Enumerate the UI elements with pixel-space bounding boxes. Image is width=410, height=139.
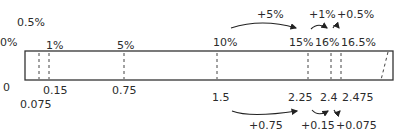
dashed-markers — [39, 52, 388, 80]
bar-rectangle — [25, 51, 393, 80]
label-value-2-25: 2.25 — [288, 92, 313, 104]
bottom-arrows — [232, 110, 340, 115]
arrow-plus0-15 — [312, 110, 328, 114]
label-value-2-4: 2.4 — [320, 92, 338, 104]
increment-plus0-75: +0.75 — [249, 120, 283, 132]
label-15pct: 15% — [289, 37, 313, 49]
increment-plus0-5pct: +0.5% — [337, 9, 374, 21]
top-arrows — [231, 23, 339, 29]
arrow-plus0-075 — [334, 110, 340, 113]
increment-plus5pct: +5% — [257, 9, 284, 21]
label-value-1-5: 1.5 — [212, 92, 230, 104]
label-1pct: 1% — [46, 40, 63, 52]
arrow-plus0-5pct — [333, 26, 339, 29]
label-value-2-475: 2.475 — [342, 92, 374, 104]
label-0-5pct: 0.5% — [17, 17, 45, 29]
label-0pct: 0% — [0, 37, 17, 49]
increment-plus0-075: +0.075 — [336, 120, 377, 132]
increment-plus0-15: +0.15 — [301, 120, 335, 132]
increment-plus1pct: +1% — [309, 9, 336, 21]
label-5pct: 5% — [117, 40, 134, 52]
label-value-0: 0 — [3, 82, 10, 94]
arrow-plus1pct — [311, 25, 327, 29]
label-value-0-15: 0.15 — [43, 85, 68, 97]
label-value-0-75: 0.75 — [112, 85, 137, 97]
label-10pct: 10% — [213, 37, 237, 49]
label-value-0-075: 0.075 — [20, 99, 52, 111]
arrow-plus0-75 — [232, 111, 297, 115]
label-16-5pct: 16.5% — [341, 37, 376, 49]
arrow-plus5pct — [231, 23, 296, 28]
label-16pct: 16% — [315, 37, 339, 49]
